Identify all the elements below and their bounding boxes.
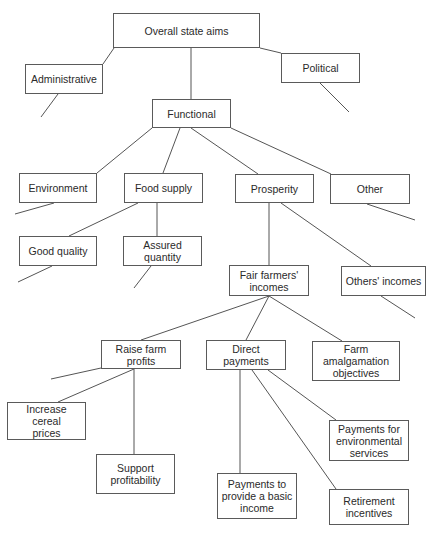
- node-political: Political: [281, 53, 360, 83]
- node-fair-farmers-incomes: Fair farmers' incomes: [229, 265, 309, 296]
- node-label: Payments to provide a basic income: [222, 478, 293, 514]
- node-label: Direct payments: [210, 343, 282, 367]
- edge-functional-to-other: [231, 128, 331, 174]
- node-others-incomes: Others' incomes: [341, 266, 426, 296]
- edge-overall-to-administrative: [103, 48, 114, 64]
- edge-others-incomes-to-stub: [381, 296, 415, 318]
- edge-functional-to-food-supply: [163, 128, 180, 173]
- node-label: Political: [302, 62, 338, 74]
- node-raise-farm-profits: Raise farm profits: [101, 340, 181, 369]
- node-label: Retirement incentives: [343, 495, 394, 519]
- node-label: Prosperity: [251, 183, 298, 195]
- node-label: Administrative: [31, 73, 97, 85]
- edge-prosperity-to-others-incomes: [281, 203, 371, 266]
- node-support-profitability: Support profitability: [96, 454, 175, 494]
- node-payments-env-services: Payments for environmental services: [329, 420, 409, 461]
- edge-administrative-to-stub: [41, 94, 58, 117]
- edge-food-supply-to-good-quality: [69, 203, 138, 236]
- edge-other-to-stub: [367, 204, 415, 220]
- node-label: Support profitability: [110, 462, 160, 486]
- node-label: Food supply: [135, 182, 192, 194]
- edge-assured-quantity-to-stub: [134, 266, 151, 288]
- node-label: Overall state aims: [144, 25, 228, 37]
- edge-political-to-stub: [320, 83, 349, 112]
- node-label: Increase cereal prices: [11, 403, 82, 439]
- edge-environment-to-stub: [15, 203, 54, 214]
- node-good-quality: Good quality: [19, 236, 97, 266]
- edge-functional-to-environment: [97, 128, 152, 173]
- node-increase-cereal-prices: Increase cereal prices: [7, 402, 86, 440]
- node-administrative: Administrative: [25, 64, 103, 94]
- node-retirement-incentives: Retirement incentives: [329, 489, 409, 525]
- node-payments-basic-income: Payments to provide a basic income: [217, 473, 297, 519]
- edge-raise-farm-profits-to-increase-cereal-prices: [58, 369, 134, 402]
- node-label: Payments for environmental services: [336, 423, 402, 459]
- policy-aims-tree-diagram: Overall state aimsAdministrativePolitica…: [0, 0, 436, 538]
- edge-raise-farm-profits-to-stub: [51, 368, 101, 379]
- node-food-supply: Food supply: [124, 173, 203, 203]
- node-prosperity: Prosperity: [235, 174, 314, 203]
- node-label: Farm amalgamation objectives: [316, 343, 396, 379]
- node-label: Fair farmers' incomes: [240, 269, 299, 293]
- edge-fair-farmers-incomes-to-farm-amalgamation: [269, 296, 342, 341]
- node-other: Other: [330, 174, 410, 204]
- node-label: Others' incomes: [346, 275, 422, 287]
- edge-good-quality-to-stub: [18, 266, 52, 282]
- node-functional: Functional: [152, 99, 231, 128]
- node-direct-payments: Direct payments: [206, 340, 286, 370]
- edge-overall-to-political: [260, 48, 281, 53]
- node-label: Good quality: [29, 245, 88, 257]
- node-label: Other: [357, 183, 383, 195]
- node-farm-amalgamation: Farm amalgamation objectives: [312, 341, 400, 381]
- node-label: Assured quantity: [127, 239, 198, 263]
- node-label: Raise farm profits: [105, 343, 177, 367]
- node-label: Environment: [29, 182, 88, 194]
- node-environment: Environment: [19, 173, 97, 203]
- node-overall: Overall state aims: [113, 13, 260, 48]
- node-assured-quantity: Assured quantity: [123, 236, 202, 266]
- edge-functional-to-prosperity: [191, 128, 258, 174]
- edge-direct-payments-to-retirement-incentives: [252, 370, 336, 489]
- node-label: Functional: [167, 108, 215, 120]
